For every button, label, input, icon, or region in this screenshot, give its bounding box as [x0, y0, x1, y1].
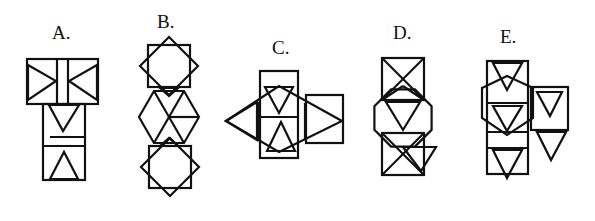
side-square-triangle	[537, 92, 562, 116]
figures-canvas	[0, 0, 595, 221]
left-triangle	[28, 65, 56, 100]
top-rectangle	[27, 59, 98, 104]
middle-down-triangle	[386, 102, 420, 130]
right-triangle	[69, 65, 97, 100]
lower-column	[43, 104, 85, 180]
column-rectangle	[487, 61, 528, 174]
option-figure-b[interactable]	[139, 37, 199, 196]
option-figure-d[interactable]	[374, 58, 436, 175]
up-triangle	[50, 152, 78, 179]
down-triangle	[49, 105, 79, 131]
answer-options-figure: A. B. C. D. E.	[0, 0, 595, 221]
option-figure-e[interactable]	[482, 61, 568, 178]
left-triangle	[226, 102, 257, 140]
option-figure-c[interactable]	[226, 71, 343, 158]
option-figure-a[interactable]	[27, 59, 98, 180]
side-triangle	[537, 132, 566, 160]
